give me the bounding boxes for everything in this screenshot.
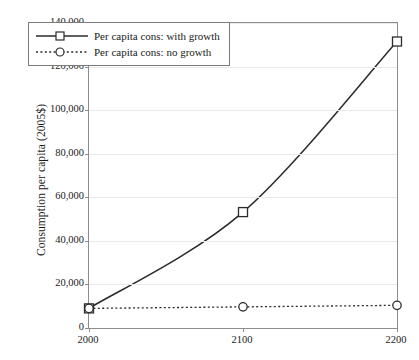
- y-tick-label: 0: [32, 322, 84, 332]
- y-tick-label: 40,000: [32, 235, 84, 245]
- x-tick-label: 2000: [78, 334, 99, 345]
- open-circle-icon: [239, 303, 247, 311]
- legend-entry-no-growth: Per capita cons: no growth: [36, 44, 220, 60]
- legend-entry-with-growth: Per capita cons: with growth: [36, 28, 220, 44]
- gridline: [89, 154, 397, 155]
- open-square-icon: [36, 29, 88, 43]
- gridline: [89, 284, 397, 285]
- gridline: [89, 197, 397, 198]
- open-square-icon: [393, 37, 402, 46]
- x-tick-label: 2100: [232, 334, 253, 345]
- legend-label-no-growth: Per capita cons: no growth: [94, 45, 211, 59]
- open-square-icon: [239, 208, 248, 217]
- y-tickmark: [85, 67, 89, 68]
- open-circle-icon: [36, 45, 88, 59]
- x-tick-label: 2200: [386, 334, 407, 345]
- x-tickmark: [397, 328, 398, 332]
- x-axis-tick-labels: 200021002200: [0, 334, 419, 354]
- y-tickmark: [85, 154, 89, 155]
- y-tick-label: 80,000: [32, 148, 84, 158]
- open-circle-icon: [85, 304, 93, 312]
- plot-area: [88, 22, 398, 329]
- x-tickmark: [89, 328, 90, 332]
- y-tick-label: 60,000: [32, 191, 84, 201]
- open-circle-icon: [393, 301, 401, 309]
- gridline: [89, 110, 397, 111]
- y-tickmark: [85, 241, 89, 242]
- gridline: [89, 67, 397, 68]
- chart-legend: Per capita cons: with growth Per capita …: [28, 22, 230, 66]
- y-tickmark: [85, 197, 89, 198]
- y-tickmark: [85, 284, 89, 285]
- chart-figure: Consumption per capita (2005$) 020,00040…: [0, 0, 419, 360]
- series-layer: [89, 23, 397, 328]
- y-tickmark: [85, 110, 89, 111]
- y-tick-label: 100,000: [32, 104, 84, 114]
- y-tick-label: 20,000: [32, 278, 84, 288]
- series-line-1: [89, 42, 397, 309]
- legend-label-with-growth: Per capita cons: with growth: [94, 29, 220, 43]
- gridline: [89, 241, 397, 242]
- x-tickmark: [243, 328, 244, 332]
